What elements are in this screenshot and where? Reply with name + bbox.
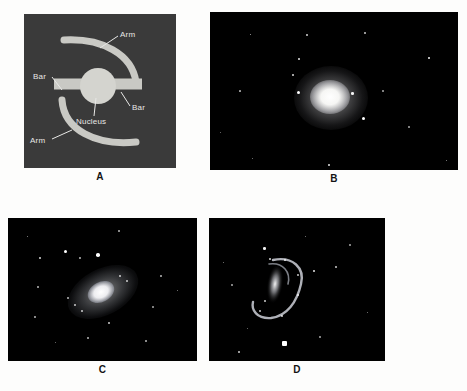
- field-star: [145, 340, 147, 342]
- field-star: [264, 300, 266, 302]
- panel-d-sky: [209, 218, 385, 361]
- ring-knot: [269, 258, 271, 260]
- field-star: [152, 306, 154, 308]
- panel-c-image: [8, 218, 197, 361]
- figure-plate: Arm Bar Bar Nucleus Arm A: [0, 0, 467, 391]
- field-star: [364, 32, 366, 34]
- galaxy-core: [310, 80, 350, 114]
- arm-knot: [67, 297, 69, 299]
- barred-spiral-schematic: Arm Bar Bar Nucleus Arm: [24, 14, 176, 168]
- panel-b: B: [210, 12, 458, 170]
- field-star: [118, 230, 120, 232]
- field-star: [282, 341, 287, 346]
- panel-d-letter: D: [209, 364, 385, 375]
- label-arm-bottom: Arm: [30, 136, 45, 145]
- panel-b-image: [210, 12, 458, 170]
- field-star: [408, 126, 410, 128]
- ring-knot: [281, 315, 283, 317]
- schematic-svg: [24, 14, 176, 168]
- field-star: [55, 342, 56, 343]
- field-star: [362, 117, 365, 120]
- panel-c-sky: [8, 218, 197, 361]
- field-star: [220, 132, 221, 133]
- panel-d-image: [209, 218, 385, 361]
- field-star: [297, 91, 300, 94]
- field-star: [96, 253, 100, 257]
- panel-a-letter: A: [24, 171, 176, 182]
- field-star: [108, 322, 110, 324]
- field-star: [177, 290, 178, 291]
- nucleus-shape: [80, 68, 116, 104]
- field-star: [79, 257, 81, 259]
- ring-galaxy-svg: [209, 218, 385, 361]
- leader-bar-right: [121, 92, 130, 106]
- field-star: [263, 247, 266, 250]
- field-star: [349, 244, 351, 246]
- field-star: [231, 284, 233, 286]
- arm-knot: [81, 310, 83, 312]
- field-star: [319, 336, 321, 338]
- panel-d: D: [209, 218, 385, 361]
- field-star: [335, 266, 337, 268]
- ring-knot: [259, 310, 261, 312]
- field-star: [64, 250, 67, 253]
- panel-a-image: Arm Bar Bar Nucleus Arm: [24, 14, 176, 168]
- field-star: [27, 236, 28, 237]
- field-star: [250, 34, 251, 35]
- field-star: [252, 158, 253, 159]
- field-star: [238, 351, 240, 353]
- ring-knot: [284, 259, 286, 261]
- field-star: [446, 160, 447, 161]
- field-star: [382, 90, 384, 92]
- field-star: [239, 90, 241, 92]
- label-arm-top: Arm: [120, 30, 135, 39]
- field-star: [428, 57, 430, 59]
- field-star: [298, 58, 300, 60]
- leader-arm-bottom: [52, 130, 72, 139]
- panel-c: C: [8, 218, 197, 361]
- panel-a: Arm Bar Bar Nucleus Arm A: [24, 14, 176, 168]
- panel-b-letter: B: [210, 173, 458, 184]
- arm-knot: [119, 275, 121, 277]
- field-star: [306, 34, 308, 36]
- label-bar-left: Bar: [33, 72, 46, 81]
- arm-knot: [74, 304, 76, 306]
- field-star: [87, 337, 89, 339]
- panel-c-letter: C: [8, 364, 197, 375]
- ring-knot: [297, 274, 299, 276]
- field-star: [292, 74, 294, 76]
- bar-nucleus-shape: [264, 263, 285, 305]
- field-star: [160, 275, 162, 277]
- label-bar-right: Bar: [132, 103, 145, 112]
- panel-b-sky: [210, 12, 458, 170]
- field-star: [39, 257, 41, 259]
- field-star: [37, 286, 39, 288]
- arm-knot: [126, 280, 128, 282]
- field-star: [351, 92, 354, 95]
- field-star: [328, 164, 330, 166]
- label-nucleus: Nucleus: [76, 117, 106, 126]
- field-star: [34, 316, 36, 318]
